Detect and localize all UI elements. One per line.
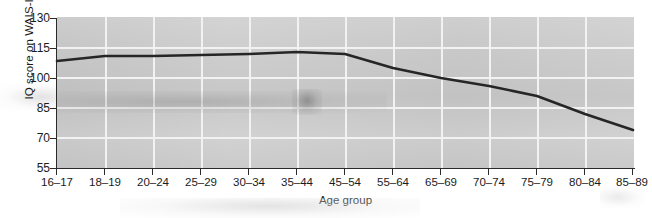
gridline-vertical bbox=[105, 17, 107, 169]
x-tick-mark bbox=[296, 169, 297, 175]
x-tick-mark bbox=[200, 169, 201, 175]
y-tick-mark bbox=[50, 48, 57, 49]
gridline-vertical bbox=[345, 17, 347, 169]
y-tick-label: 100 bbox=[24, 71, 50, 85]
x-tick-mark bbox=[344, 169, 345, 175]
y-tick-label: 55 bbox=[24, 161, 50, 175]
gridline-vertical bbox=[393, 17, 395, 169]
x-tick-label: 85–89 bbox=[604, 176, 652, 188]
y-tick-mark bbox=[50, 78, 57, 79]
x-tick-mark bbox=[104, 169, 105, 175]
gridline-vertical bbox=[249, 17, 251, 169]
gridline-vertical bbox=[489, 17, 491, 169]
plot-area bbox=[57, 17, 634, 169]
x-tick-mark bbox=[440, 169, 441, 175]
x-tick-mark bbox=[584, 169, 585, 175]
y-tick-label: 130 bbox=[24, 11, 50, 25]
gridline-vertical bbox=[201, 17, 203, 169]
y-tick-mark bbox=[50, 138, 57, 139]
y-tick-mark bbox=[50, 108, 57, 109]
y-tick-label: 70 bbox=[24, 131, 50, 145]
gridline-vertical bbox=[585, 17, 587, 169]
x-tick-mark bbox=[488, 169, 489, 175]
x-tick-mark bbox=[248, 169, 249, 175]
x-tick-mark bbox=[632, 169, 633, 175]
x-axis-title: Age group bbox=[57, 194, 634, 206]
gridline-vertical bbox=[537, 17, 539, 169]
x-axis-spine bbox=[56, 168, 635, 169]
gridline-vertical bbox=[441, 17, 443, 169]
x-tick-mark bbox=[56, 169, 57, 175]
x-tick-mark bbox=[392, 169, 393, 175]
y-tick-mark bbox=[50, 18, 57, 19]
x-tick-mark bbox=[152, 169, 153, 175]
y-tick-label: 115 bbox=[24, 41, 50, 55]
gridline-vertical bbox=[153, 17, 155, 169]
gridline-vertical bbox=[297, 17, 299, 169]
y-tick-label: 85 bbox=[24, 101, 50, 115]
x-tick-mark bbox=[536, 169, 537, 175]
